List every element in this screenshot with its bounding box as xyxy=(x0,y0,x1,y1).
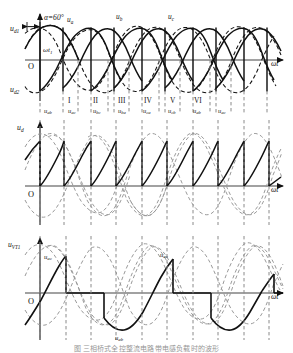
line-voltage-label: ucb xyxy=(168,107,176,115)
panel3-x-axis-label: ωt xyxy=(271,292,279,301)
panel1-commutation-guides xyxy=(40,60,267,113)
panel3-annotation-uac-first: uac xyxy=(44,253,53,261)
panel3-origin-label: O xyxy=(28,297,34,306)
line-voltage-label: uab xyxy=(193,107,202,115)
interval-I: I xyxy=(68,96,71,105)
line-voltage-label: uca xyxy=(143,107,151,115)
interval-band: I II III IV V VI uab uac ubc uba uca ucb… xyxy=(44,96,226,115)
panel1-x-axis-label: ωt xyxy=(271,59,279,68)
figure-caption: 图 三相桥式全控整流电路带电感负载时的波形 xyxy=(0,343,293,353)
waveform-figure: α=60° ud1 ud2 O ua ub uc ωt1 ωt I II III… xyxy=(0,0,293,353)
phase-b-label: ub xyxy=(116,12,123,22)
waveform-svg: α=60° ud1 ud2 O ua ub uc ωt1 ωt I II III… xyxy=(0,0,293,353)
interval-V: V xyxy=(170,96,176,105)
interval-III: III xyxy=(118,96,126,105)
panel3-annotation-uab: uab xyxy=(115,334,124,342)
line-voltage-label: uac xyxy=(68,107,76,115)
panel2-origin-label: O xyxy=(28,190,34,199)
line-voltage-label: uac xyxy=(218,107,226,115)
panel2-x-axis-label: ωt xyxy=(271,185,279,194)
line-voltage-label: uba xyxy=(118,107,127,115)
interval-VI: VI xyxy=(194,96,202,105)
panel1-y-bottom-label: ud2 xyxy=(10,85,20,95)
panel-output-voltage: ud O ωt xyxy=(17,120,283,225)
line-voltage-label: uab xyxy=(44,107,53,115)
panel2-y-label: ud xyxy=(17,123,24,133)
line-voltage-label: ubc xyxy=(93,107,101,115)
panel2-output-waveform xyxy=(25,141,281,186)
panel1-line-voltage-labels: uab uac ubc uba uca ucb uab uac xyxy=(44,107,226,115)
panel1-y-top-label: ud1 xyxy=(10,24,20,34)
interval-IV: IV xyxy=(144,96,152,105)
panel3-annotation-uac-second: uac xyxy=(160,251,169,259)
interval-II: II xyxy=(93,96,98,105)
phase-c-label: uc xyxy=(168,12,175,22)
trigger-instant-label: ωt1 xyxy=(43,46,52,55)
phase-a-label: ua xyxy=(67,15,74,25)
panel2-commutation-guides xyxy=(40,120,269,225)
alpha-label: α=60° xyxy=(44,13,64,22)
panel-thyristor-voltage: uVT1 O ωt uac uac uab xyxy=(8,236,283,342)
panel1-origin-label: O xyxy=(28,62,34,71)
panel3-y-label: uVT1 xyxy=(8,240,21,250)
